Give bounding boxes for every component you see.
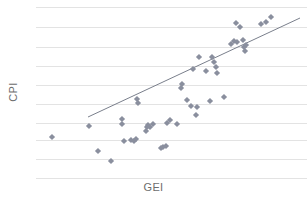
data-point: [119, 121, 125, 127]
x-axis-label: GEI: [0, 181, 307, 193]
data-point: [49, 134, 55, 140]
data-point: [240, 37, 246, 43]
data-point: [193, 112, 199, 118]
data-point: [268, 14, 274, 20]
data-point: [86, 123, 92, 129]
data-point: [194, 104, 200, 110]
data-point: [121, 138, 127, 144]
data-point: [95, 148, 101, 154]
chart-canvas: [0, 0, 307, 202]
data-point: [221, 94, 227, 100]
y-axis-label: CPI: [7, 72, 19, 112]
data-point: [237, 24, 243, 30]
data-point: [196, 54, 202, 60]
data-point: [233, 20, 239, 26]
data-point: [207, 98, 213, 104]
data-points: [49, 14, 274, 164]
data-point: [184, 97, 190, 103]
data-point: [214, 70, 220, 76]
gridlines: [36, 7, 307, 178]
data-point: [174, 121, 180, 127]
data-point: [203, 68, 209, 74]
scatter-chart: CPI GEI: [0, 0, 307, 202]
